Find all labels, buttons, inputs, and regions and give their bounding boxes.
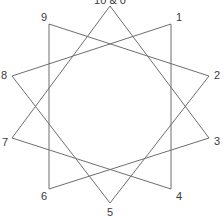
vertex-label-7: 7 xyxy=(2,136,8,148)
edge-4-7 xyxy=(12,138,171,189)
edge-7-0 xyxy=(12,6,110,138)
vertex-label-1: 1 xyxy=(176,11,182,23)
star-edges xyxy=(12,6,209,203)
edge-8-1 xyxy=(12,24,171,76)
vertex-label-5: 5 xyxy=(107,206,113,218)
edge-2-5 xyxy=(110,76,209,203)
decagram-diagram: 10 & 0 1 2 3 4 5 6 7 8 9 xyxy=(0,0,223,220)
vertex-label-4: 4 xyxy=(176,190,182,202)
edge-3-6 xyxy=(49,138,209,189)
vertex-label-0: 10 & 0 xyxy=(94,0,126,6)
vertex-label-2: 2 xyxy=(214,69,220,81)
vertex-label-8: 8 xyxy=(1,69,7,81)
edge-5-8 xyxy=(12,76,110,203)
vertex-label-6: 6 xyxy=(41,190,47,202)
vertex-label-9: 9 xyxy=(41,11,47,23)
vertex-label-3: 3 xyxy=(214,135,220,147)
edge-0-3 xyxy=(110,6,209,138)
